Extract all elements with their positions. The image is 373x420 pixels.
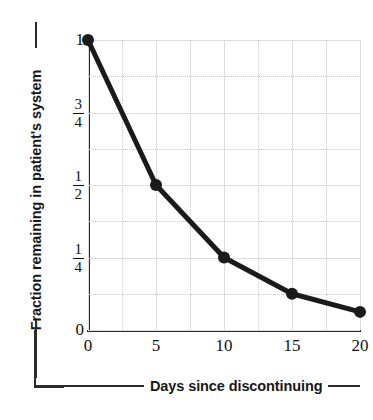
grid-line-horizontal [88, 330, 360, 331]
y-tick-label: 34 [44, 97, 84, 130]
y-axis-tick-labels: 01412341 [40, 40, 84, 330]
x-tick-label: 5 [136, 336, 176, 356]
x-tick-label: 10 [204, 336, 244, 356]
data-line [88, 40, 360, 312]
series-layer [88, 40, 360, 330]
x-tick-label: 20 [340, 336, 373, 356]
chart-figure: Fraction remaining in patient's system 0… [0, 0, 373, 420]
y-tick-label: 14 [44, 242, 84, 275]
x-axis-tick-labels: 05101520 [88, 336, 360, 360]
x-axis-title-rule-right [328, 385, 360, 387]
x-axis-title-rule-left [34, 385, 144, 387]
data-point [82, 34, 94, 46]
y-tick-label: 12 [44, 169, 84, 202]
y-axis-title-rule-top [35, 22, 37, 48]
data-point [286, 288, 298, 300]
data-point [354, 306, 366, 318]
data-points [82, 34, 366, 318]
grid-line-vertical [360, 40, 361, 330]
x-axis-title: Days since discontinuing [144, 378, 328, 394]
x-tick-label: 0 [68, 336, 108, 356]
data-point [218, 252, 230, 264]
data-point [150, 179, 162, 191]
x-axis-title-group: Days since discontinuing [34, 375, 360, 397]
x-tick-label: 15 [272, 336, 312, 356]
plot-area [88, 40, 360, 330]
y-tick-label: 1 [44, 31, 84, 48]
